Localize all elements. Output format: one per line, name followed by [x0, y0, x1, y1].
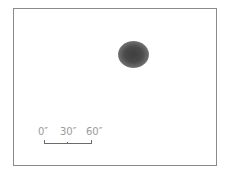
scale-bar: [44, 143, 92, 144]
scale-label-30: 30″: [60, 126, 76, 137]
scale-tick: [91, 140, 92, 144]
scale-label-60: 60″: [86, 126, 102, 137]
scale-tick: [67, 142, 68, 144]
scale-tick: [44, 140, 45, 144]
scale-label-0: 0″: [38, 126, 48, 137]
nebula-blob: [118, 41, 149, 68]
